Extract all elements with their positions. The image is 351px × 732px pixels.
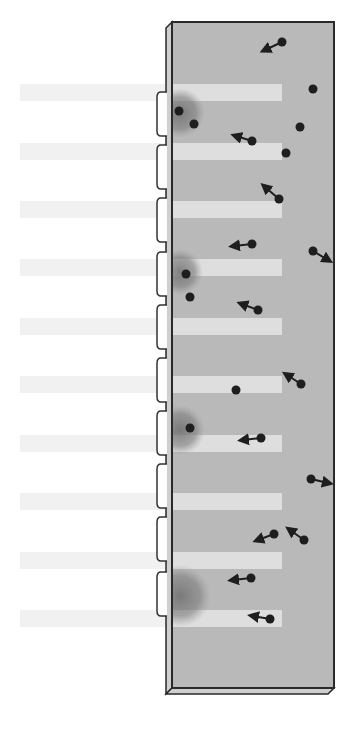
membrane-tab	[157, 198, 167, 242]
light-band	[172, 201, 282, 218]
particle-dot	[300, 536, 309, 545]
outside-band	[20, 201, 165, 218]
particle-dot	[270, 530, 279, 539]
outside-band	[20, 435, 165, 452]
particle	[309, 85, 318, 94]
particle-dot	[309, 247, 318, 256]
membrane-tab	[157, 411, 167, 455]
light-band	[172, 143, 282, 160]
particle	[186, 293, 195, 302]
outside-band	[20, 493, 165, 510]
membrane-box	[149, 22, 334, 694]
particle-dot	[232, 386, 241, 395]
membrane-tab	[157, 517, 167, 561]
particle-dot	[309, 85, 318, 94]
particle-dot	[182, 270, 191, 279]
light-band	[172, 318, 282, 335]
particle-dot	[296, 123, 305, 132]
particle-dot	[190, 120, 199, 129]
particle-dot	[248, 240, 257, 249]
membrane-tab	[157, 252, 167, 296]
particle-dot	[257, 434, 266, 443]
particle-dot	[254, 306, 263, 315]
particle	[182, 270, 191, 279]
particle-dot	[247, 574, 256, 583]
particle	[186, 424, 195, 433]
membrane-diagram	[0, 0, 351, 732]
outside-band	[20, 259, 165, 276]
particle	[190, 120, 199, 129]
outside-band	[20, 376, 165, 393]
outside-band	[20, 318, 165, 335]
outside-band	[20, 610, 165, 627]
faint-outside-bands	[20, 84, 165, 627]
particle-dot	[175, 107, 184, 116]
membrane-tab	[157, 145, 167, 189]
membrane-tab	[157, 358, 167, 402]
particle-dot	[275, 195, 284, 204]
particle-dot	[307, 475, 316, 484]
particle	[282, 149, 291, 158]
outside-band	[20, 552, 165, 569]
particle-dot	[248, 137, 257, 146]
particle-dot	[282, 149, 291, 158]
particle-dot	[186, 424, 195, 433]
outside-band	[20, 84, 165, 101]
outside-band	[20, 143, 165, 160]
particle	[296, 123, 305, 132]
light-band	[172, 493, 282, 510]
particle-dot	[278, 38, 287, 47]
membrane-tab	[157, 305, 167, 349]
particle	[232, 386, 241, 395]
particle-dot	[266, 615, 275, 624]
membrane-tab	[157, 464, 167, 508]
membrane-tab	[157, 92, 167, 136]
particle-dot	[186, 293, 195, 302]
membrane-tab	[157, 572, 167, 616]
diagram-canvas	[0, 0, 351, 732]
particle-dot	[297, 380, 306, 389]
particle	[175, 107, 184, 116]
light-band	[172, 376, 282, 393]
